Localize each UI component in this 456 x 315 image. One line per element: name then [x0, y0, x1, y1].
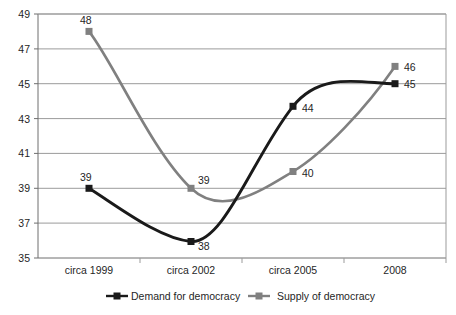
legend-item-demand[interactable]: Demand for democracy: [106, 290, 241, 302]
legend-marker-demand: [114, 293, 121, 300]
chart-legend: Demand for democracy Supply of democracy: [106, 290, 376, 302]
line-chart: 49 47 45 43 41 39 37 35 circa 1999 circa…: [0, 0, 456, 315]
marker-supply-2002: [188, 185, 195, 192]
y-axis-label-49: 49: [18, 8, 30, 20]
data-label-demand-2008: 45: [404, 78, 416, 90]
marker-supply-2005: [290, 168, 297, 175]
y-axis-labels: 49 47 45 43 41 39 37 35: [18, 8, 30, 264]
data-label-demand-2005: 44: [302, 102, 314, 114]
plot-area-background: [38, 14, 446, 258]
y-axis-ticks: [34, 14, 38, 258]
data-label-supply-2005: 40: [302, 167, 314, 179]
marker-demand-2008: [392, 80, 399, 87]
marker-supply-1999: [86, 28, 93, 35]
y-axis-label-39: 39: [18, 182, 30, 194]
marker-supply-2008: [392, 63, 399, 70]
data-label-supply-2008: 46: [404, 61, 416, 73]
y-axis-label-41: 41: [18, 147, 30, 159]
y-axis-label-43: 43: [18, 113, 30, 125]
x-axis-label-2008: 2008: [383, 264, 407, 276]
y-axis-label-47: 47: [18, 43, 30, 55]
x-axis-label-2002: circa 2002: [167, 264, 216, 276]
legend-item-supply[interactable]: Supply of democracy: [248, 290, 376, 302]
x-axis-label-1999: circa 1999: [65, 264, 114, 276]
data-label-demand-1999: 39: [80, 171, 92, 183]
data-label-demand-2002: 38: [198, 240, 210, 252]
marker-demand-1999: [86, 185, 93, 192]
x-axis-ticks: [140, 258, 446, 263]
legend-label-supply: Supply of democracy: [277, 290, 376, 302]
marker-demand-2002: [188, 238, 195, 245]
x-axis-labels: circa 1999 circa 2002 circa 2005 2008: [65, 264, 407, 276]
marker-demand-2005: [290, 103, 297, 110]
y-axis-label-37: 37: [18, 217, 30, 229]
chart-container: 49 47 45 43 41 39 37 35 circa 1999 circa…: [0, 0, 456, 315]
y-axis-label-35: 35: [18, 252, 30, 264]
y-axis-label-45: 45: [18, 78, 30, 90]
data-label-supply-2002: 39: [198, 174, 210, 186]
data-label-supply-1999: 48: [80, 14, 92, 26]
legend-label-demand: Demand for democracy: [131, 290, 241, 302]
legend-marker-supply: [256, 293, 263, 300]
x-axis-label-2005: circa 2005: [269, 264, 318, 276]
